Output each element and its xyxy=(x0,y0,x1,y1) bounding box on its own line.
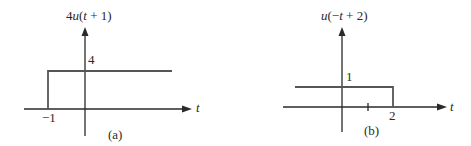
panel-a: 4u(t + 1) 4 −1 t (a) xyxy=(24,8,200,142)
panel-a-signal-step xyxy=(48,71,172,109)
panel-b-y-axis-arrow-icon xyxy=(339,27,346,36)
panel-b-x-tick-label-2: 2 xyxy=(389,108,396,123)
panel-b-signal-step xyxy=(295,87,393,107)
panel-a-y-tick-label: 4 xyxy=(88,52,95,67)
figure-canvas: 4u(t + 1) 4 −1 t (a) u(−t + 2) 1 xyxy=(0,0,471,146)
panel-a-x-tick-label: −1 xyxy=(42,110,56,125)
panel-b-x-axis-arrow-icon xyxy=(437,104,447,111)
panel-b-x-axis-label: t xyxy=(450,99,454,114)
panel-b-y-tick-label: 1 xyxy=(346,69,353,84)
panel-b: u(−t + 2) 1 2 t (b) xyxy=(283,8,454,138)
panel-a-x-axis-label: t xyxy=(196,100,200,115)
panel-a-title: 4u(t + 1) xyxy=(66,8,112,23)
panel-a-x-axis-arrow-icon xyxy=(182,106,192,113)
panel-b-title: u(−t + 2) xyxy=(321,8,367,23)
panel-b-caption: (b) xyxy=(364,123,379,138)
panel-a-caption: (a) xyxy=(108,127,122,142)
panel-a-y-axis-arrow-icon xyxy=(82,27,89,36)
